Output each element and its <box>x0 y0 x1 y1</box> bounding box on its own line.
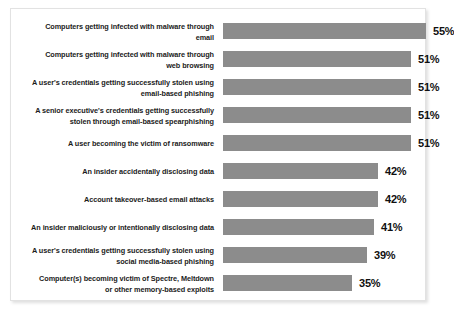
bar-fill <box>223 79 411 95</box>
bar-value-label: 41% <box>381 221 402 233</box>
bar-category-label-line2: or other memory-based exploits <box>16 284 214 295</box>
bar-category-label-line1: A senior executive's credentials getting… <box>16 106 214 117</box>
bar-row: Account takeover-based email attacks42% <box>11 186 425 214</box>
bar-fill <box>223 107 411 123</box>
bar-category-label-line2: email-based phishing <box>16 88 214 99</box>
bar-track: 42% <box>223 191 425 207</box>
bar-category-label: An insider maliciously or intentionally … <box>16 223 214 234</box>
bar-track: 35% <box>223 275 425 291</box>
bar-category-label-line1: An insider accidentally disclosing data <box>16 167 214 178</box>
bar-row: A user becoming the victim of ransomware… <box>11 130 425 158</box>
bar-track: 51% <box>223 135 425 151</box>
bar-category-label-line1: Computers getting infected with malware … <box>16 22 214 33</box>
bar-fill <box>223 23 426 39</box>
bar-fill <box>223 163 378 179</box>
bar-category-label-line2: stolen through email-based spearphishing <box>16 116 214 127</box>
bar-chart-plot-area: Computers getting infected with malware … <box>11 9 425 300</box>
bar-row: Computers getting infected with malware … <box>11 46 425 74</box>
bar-fill <box>223 135 411 151</box>
bar-category-label: A senior executive's credentials getting… <box>16 106 214 127</box>
bar-category-label-line1: A user becoming the victim of ransomware <box>16 139 214 150</box>
bar-category-label-line2: email <box>16 32 214 43</box>
bar-category-label-line1: Account takeover-based email attacks <box>16 195 214 206</box>
bar-row: Computers getting infected with malware … <box>11 18 425 46</box>
bar-category-label: A user's credentials getting successfull… <box>16 78 214 99</box>
bar-category-label: A user becoming the victim of ransomware <box>16 139 214 150</box>
bar-category-label: Computer(s) becoming victim of Spectre, … <box>16 274 214 295</box>
bar-category-label-line2: social media-based phishing <box>16 256 214 267</box>
bar-category-label: A user's credentials getting successfull… <box>16 246 214 267</box>
bar-row: Computer(s) becoming victim of Spectre, … <box>11 270 425 298</box>
bar-row: A senior executive's credentials getting… <box>11 102 425 130</box>
bar-track: 42% <box>223 163 425 179</box>
bar-value-label: 42% <box>385 165 406 177</box>
bar-row: A user's credentials getting successfull… <box>11 242 425 270</box>
bar-category-label-line1: An insider maliciously or intentionally … <box>16 223 214 234</box>
bar-category-label-line1: Computer(s) becoming victim of Spectre, … <box>16 274 214 285</box>
bar-track: 55% <box>223 23 425 39</box>
bar-category-label: Account takeover-based email attacks <box>16 195 214 206</box>
bar-track: 39% <box>223 247 425 263</box>
bar-fill <box>223 275 352 291</box>
bar-value-label: 51% <box>418 53 439 65</box>
bar-category-label-line2: web browsing <box>16 60 214 71</box>
bar-category-label-line1: Computers getting infected with malware … <box>16 50 214 61</box>
bar-row: A user's credentials getting successfull… <box>11 74 425 102</box>
bar-fill <box>223 191 378 207</box>
bar-category-label: An insider accidentally disclosing data <box>16 167 214 178</box>
bar-value-label: 35% <box>359 277 380 289</box>
bar-value-label: 39% <box>374 249 395 261</box>
bar-fill <box>223 219 374 235</box>
bar-category-label-line1: A user's credentials getting successfull… <box>16 78 214 89</box>
bar-value-label: 55% <box>433 25 454 37</box>
bar-category-label-line1: A user's credentials getting successfull… <box>16 246 214 257</box>
chart-frame: Computers getting infected with malware … <box>10 8 426 301</box>
bar-category-label: Computers getting infected with malware … <box>16 50 214 71</box>
bar-value-label: 42% <box>385 193 406 205</box>
bar-value-label: 51% <box>418 109 439 121</box>
bar-track: 51% <box>223 51 425 67</box>
bar-category-label: Computers getting infected with malware … <box>16 22 214 43</box>
bar-row: An insider accidentally disclosing data4… <box>11 158 425 186</box>
bar-value-label: 51% <box>418 81 439 93</box>
bar-row: An insider maliciously or intentionally … <box>11 214 425 242</box>
bar-fill <box>223 51 411 67</box>
bar-fill <box>223 247 367 263</box>
bar-track: 41% <box>223 219 425 235</box>
bar-track: 51% <box>223 79 425 95</box>
bar-value-label: 51% <box>418 137 439 149</box>
bar-track: 51% <box>223 107 425 123</box>
